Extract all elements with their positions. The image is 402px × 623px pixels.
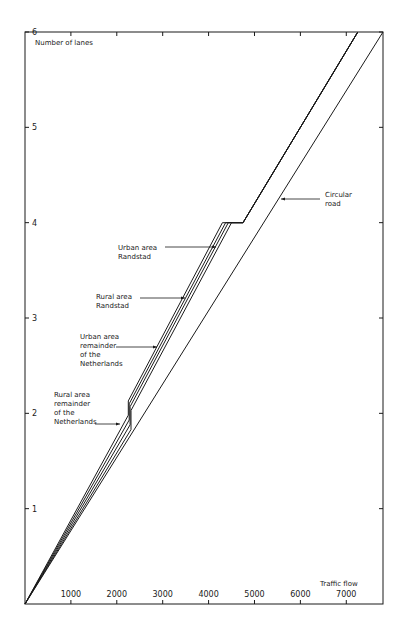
x-axis-title: Traffic flow — [319, 580, 358, 588]
y-axis-title: Number of lanes — [35, 39, 93, 47]
label-rural-remainder: Rural arearemainderof theNetherlands — [54, 391, 97, 426]
label-rural-randstad: Rural areaRandstad — [96, 293, 132, 310]
x-tick-label: 2000 — [107, 590, 127, 599]
arrow-head-icon — [116, 423, 120, 426]
series-line — [25, 32, 358, 604]
arrow-head-icon — [281, 198, 285, 201]
data-series — [25, 32, 383, 604]
series-line — [25, 32, 383, 604]
y-tick-label: 3 — [32, 314, 37, 323]
y-tick-label: 5 — [32, 123, 37, 132]
x-tick-label: 7000 — [336, 590, 356, 599]
x-axis-ticks: 1000200030004000500060007000 — [61, 32, 357, 604]
label-circular-road: Circularroad — [325, 191, 352, 208]
x-tick-label: 1000 — [61, 590, 81, 599]
annotations: Urban areaRandstadRural areaRandstadUrba… — [54, 191, 352, 426]
y-axis-ticks: 123456 — [25, 28, 383, 514]
x-tick-label: 6000 — [290, 590, 310, 599]
y-tick-label: 1 — [32, 505, 37, 514]
y-tick-label: 4 — [32, 219, 37, 228]
label-urban-remainder: Urban arearemainderof theNetherlands — [80, 333, 123, 368]
x-tick-label: 5000 — [244, 590, 264, 599]
label-urban-randstad: Urban areaRandstad — [118, 244, 157, 261]
lanes-vs-traffic-chart: 1000200030004000500060007000 123456 Numb… — [0, 0, 402, 623]
y-tick-label: 6 — [32, 28, 37, 37]
x-tick-label: 4000 — [198, 590, 218, 599]
y-tick-label: 2 — [32, 409, 37, 418]
x-tick-label: 3000 — [153, 590, 173, 599]
